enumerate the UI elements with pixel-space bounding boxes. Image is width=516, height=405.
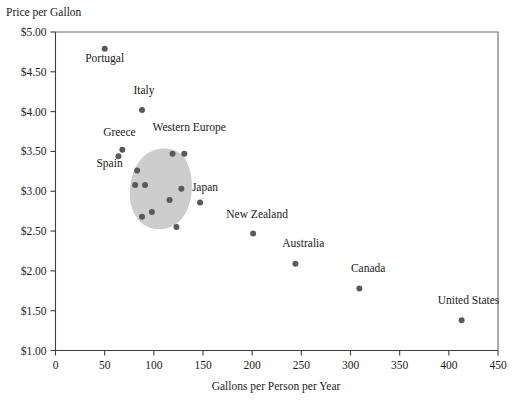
y-tick-label: $2.00 (21, 265, 47, 277)
x-axis-title: Gallons per Person per Year (212, 380, 341, 393)
data-point (170, 151, 176, 157)
data-point (173, 224, 179, 230)
y-axis-title: Price per Gallon (6, 6, 82, 19)
y-tick-label: $4.50 (21, 66, 47, 78)
axis-lines (56, 32, 499, 351)
y-tick-label: $5.00 (21, 26, 47, 38)
y-tick-label: $4.00 (21, 106, 47, 118)
data-point (134, 168, 140, 174)
label-new-zealand: New Zealand (226, 208, 288, 220)
label-japan: Japan (192, 181, 218, 194)
x-tick-label: 0 (53, 359, 59, 371)
data-point-united-states (459, 317, 465, 323)
x-tick-label: 300 (342, 359, 360, 371)
data-point (178, 186, 184, 192)
x-tick-label: 250 (293, 359, 311, 371)
data-point-australia (292, 261, 298, 267)
x-tick-label: 450 (489, 359, 507, 371)
data-point (167, 197, 173, 203)
data-point-japan (197, 199, 203, 205)
data-point (132, 182, 138, 188)
data-point-portugal (102, 46, 108, 52)
x-tick-label: 400 (440, 359, 458, 371)
label-spain: Spain (96, 157, 122, 170)
y-tick-label: $2.50 (21, 225, 47, 237)
label-italy: Italy (133, 84, 154, 97)
x-tick-label: 50 (99, 359, 111, 371)
label-portugal: Portugal (85, 52, 124, 65)
data-point (149, 209, 155, 215)
x-axis-ticks: 050100150200250300350400450 (53, 351, 507, 371)
data-point (139, 214, 145, 220)
y-tick-label: $3.00 (21, 185, 47, 197)
y-tick-label: $3.50 (21, 145, 47, 157)
plot-frame (56, 32, 499, 351)
x-tick-label: 150 (194, 359, 212, 371)
data-point-greece (119, 147, 125, 153)
data-point-italy (139, 107, 145, 113)
data-point-new-zealand (250, 230, 256, 236)
y-tick-label: $1.50 (21, 305, 47, 317)
chart-canvas: Price per Gallon $1.00$1.50$2.00$2.50$3.… (0, 0, 516, 405)
scatter-chart: Price per Gallon $1.00$1.50$2.00$2.50$3.… (0, 0, 516, 405)
label-greece: Greece (103, 126, 136, 138)
y-axis-ticks: $1.00$1.50$2.00$2.50$3.00$3.50$4.00$4.50… (21, 26, 56, 357)
data-point (181, 151, 187, 157)
x-tick-label: 100 (145, 359, 163, 371)
label-canada: Canada (351, 262, 385, 274)
y-tick-label: $1.00 (21, 345, 47, 357)
label-western-europe: Western Europe (152, 121, 225, 134)
x-tick-label: 350 (391, 359, 409, 371)
label-united-states: United States (438, 294, 500, 306)
data-point-canada (356, 285, 362, 291)
label-australia: Australia (282, 237, 324, 249)
x-tick-label: 200 (244, 359, 262, 371)
data-point (142, 182, 148, 188)
